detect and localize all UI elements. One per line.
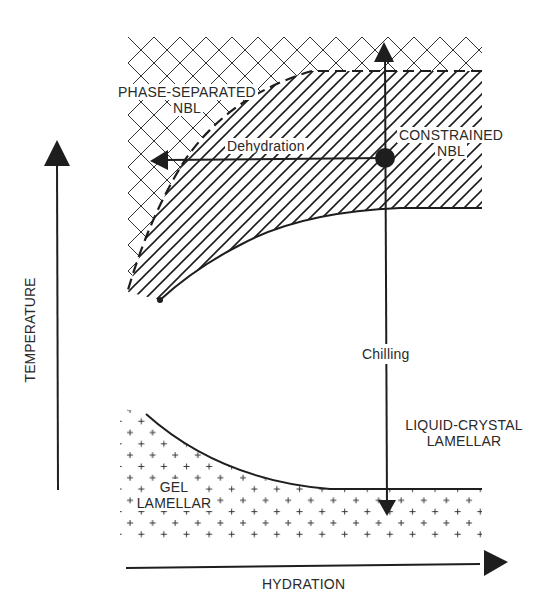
phase-separated-line1: PHASE-SEPARATED [116, 84, 258, 100]
phase-separated-line2: NBL [171, 100, 203, 116]
liquid-crystal-line1: LIQUID-CRYSTAL [398, 417, 530, 433]
hydration-axis-label: HYDRATION [262, 576, 345, 592]
liquid-crystal-line2: LAMELLAR [398, 433, 530, 449]
constrained-label: CONSTRAINED NBL [396, 127, 506, 159]
chilling-label: Chilling [360, 344, 412, 364]
gel-label: GEL LAMELLAR [124, 479, 224, 511]
liquid-crystal-label: LIQUID-CRYSTAL LAMELLAR [398, 417, 530, 449]
constrained-line1: CONSTRAINED [397, 127, 505, 143]
hydration-axis-arrow [126, 550, 508, 576]
dehydration-label: Dehydration [225, 138, 307, 154]
temperature-axis-arrow [44, 140, 70, 490]
phase-diagram [0, 0, 556, 614]
chilling-text: Chilling [362, 346, 410, 362]
gel-line2: LAMELLAR [135, 495, 214, 511]
gel-line1: GEL [158, 479, 191, 495]
temperature-axis-label: TEMPERATURE [22, 278, 38, 383]
phase-separated-label: PHASE-SEPARATED NBL [112, 84, 262, 116]
hydration-text: HYDRATION [262, 576, 345, 592]
state-point-dot [375, 148, 395, 168]
dehydration-text: Dehydration [227, 138, 305, 154]
constrained-line2: NBL [435, 143, 467, 159]
boundary-end-dot [157, 297, 163, 303]
